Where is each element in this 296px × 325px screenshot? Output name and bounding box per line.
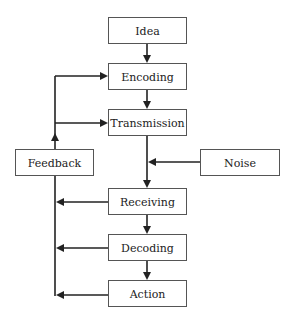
node-decoding: Decoding xyxy=(109,235,187,261)
arrow-receiving-to-decoding xyxy=(143,215,151,234)
arrow-decoding-to-feedback xyxy=(56,244,108,252)
node-label-decoding: Decoding xyxy=(121,242,174,255)
node-label-encoding: Encoding xyxy=(121,71,174,84)
communication-diagram: Idea Encoding Transmission Feedback Nois… xyxy=(0,0,296,325)
node-label-noise: Noise xyxy=(224,157,256,170)
arrow-noise-to-link xyxy=(148,158,200,166)
arrow-idea-to-encoding xyxy=(143,44,151,63)
node-label-feedback: Feedback xyxy=(28,157,82,170)
arrow-decoding-to-action xyxy=(143,261,151,280)
arrow-action-to-feedback xyxy=(56,291,108,299)
node-label-idea: Idea xyxy=(135,25,160,38)
feedback-up-line xyxy=(51,76,59,149)
arrow-receiving-to-feedback xyxy=(56,198,108,206)
arrow-encoding-to-transmission xyxy=(143,90,151,109)
node-label-action: Action xyxy=(129,288,166,301)
node-encoding: Encoding xyxy=(109,64,187,90)
arrow-feedback-to-transmission xyxy=(55,119,108,127)
node-transmission: Transmission xyxy=(109,110,187,136)
arrow-feedback-to-encoding xyxy=(55,72,108,80)
node-receiving: Receiving xyxy=(109,189,187,215)
node-action: Action xyxy=(109,281,187,307)
node-label-receiving: Receiving xyxy=(120,196,175,209)
node-noise: Noise xyxy=(201,150,280,176)
node-label-transmission: Transmission xyxy=(110,117,184,130)
node-idea: Idea xyxy=(109,18,187,44)
node-feedback: Feedback xyxy=(16,150,94,176)
